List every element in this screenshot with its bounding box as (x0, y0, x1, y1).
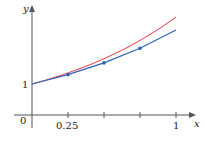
chart: y x 0 0.25 1 1 (0, 0, 209, 141)
y-axis-arrow-icon (29, 5, 35, 12)
x-tick-label-1: 1 (173, 120, 179, 131)
y-tick-label-1: 1 (22, 79, 28, 90)
exact-curve (32, 17, 176, 84)
euler-point-marker (138, 46, 142, 50)
x-axis-label: x (194, 118, 200, 129)
axes (14, 5, 196, 128)
euler-polyline (32, 30, 176, 84)
origin-label: 0 (20, 115, 26, 126)
x-tick-label-0.25: 0.25 (56, 120, 78, 131)
y-axis-label: y (22, 3, 29, 14)
euler-point-marker (66, 73, 70, 77)
euler-point-marker (102, 61, 106, 65)
